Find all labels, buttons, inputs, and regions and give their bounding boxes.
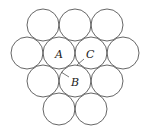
circles: [11, 9, 139, 125]
circle-r4-1: [43, 93, 75, 125]
label-b: B: [70, 76, 79, 89]
circle-r2-4: [107, 37, 139, 69]
label-c: C: [86, 48, 95, 61]
circle-r2-1: [11, 37, 43, 69]
pointer-line-b: [61, 72, 69, 77]
circle-r1-3: [91, 9, 123, 41]
circle-r1-1: [27, 9, 59, 41]
circle-r1-2: [59, 9, 91, 41]
circle-r3-1: [27, 65, 59, 97]
circle-r4-2: [75, 93, 107, 125]
circle-r3-3: [91, 65, 123, 97]
circle-packing-diagram: A C B: [0, 0, 152, 138]
label-a: A: [54, 48, 63, 61]
